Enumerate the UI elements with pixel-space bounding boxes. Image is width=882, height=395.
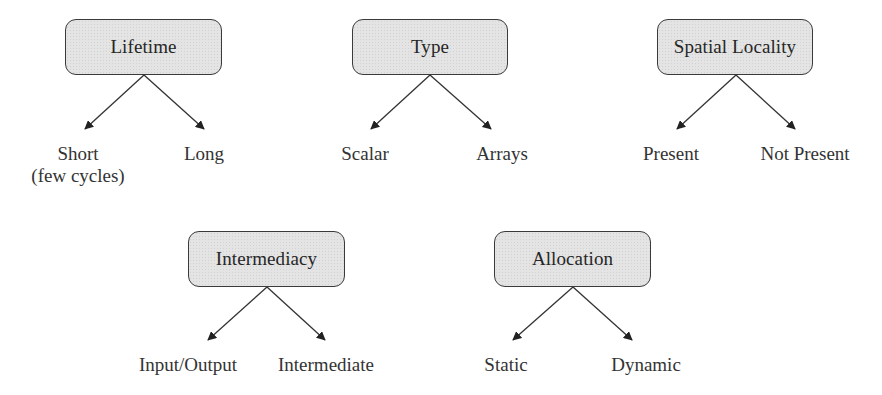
arrow-2-a xyxy=(677,75,736,129)
leaf-not-present: Not Present xyxy=(760,143,849,165)
leaf-dynamic: Dynamic xyxy=(611,354,681,376)
arrow-3-a xyxy=(208,287,267,340)
arrow-1-a xyxy=(371,75,430,129)
leaf-scalar: Scalar xyxy=(341,143,388,165)
leaf-static: Static xyxy=(484,354,527,376)
arrow-0-b xyxy=(144,75,204,129)
leaf-short-sublabel: (few cycles) xyxy=(31,165,124,187)
leaf-present: Present xyxy=(643,143,699,165)
arrow-2-b xyxy=(736,75,795,129)
leaf-intermediate: Intermediate xyxy=(278,354,374,376)
node-lifetime: Lifetime xyxy=(65,19,222,75)
arrow-1-b xyxy=(430,75,491,129)
arrow-0-a xyxy=(85,75,144,129)
leaf-long: Long xyxy=(184,143,224,165)
node-type: Type xyxy=(352,19,508,75)
arrow-4-b xyxy=(573,287,632,340)
arrow-3-b xyxy=(267,287,325,340)
node-intermediacy: Intermediacy xyxy=(188,231,345,287)
leaf-arrays: Arrays xyxy=(476,143,528,165)
node-spatial-locality: Spatial Locality xyxy=(657,19,813,75)
classification-diagram: Lifetime Short (few cycles) Long Type Sc… xyxy=(0,0,882,395)
leaf-input-output: Input/Output xyxy=(139,354,237,376)
node-allocation: Allocation xyxy=(494,231,651,287)
arrow-4-a xyxy=(513,287,573,340)
leaf-short: Short (few cycles) xyxy=(31,143,124,187)
leaf-short-label: Short xyxy=(31,143,124,165)
